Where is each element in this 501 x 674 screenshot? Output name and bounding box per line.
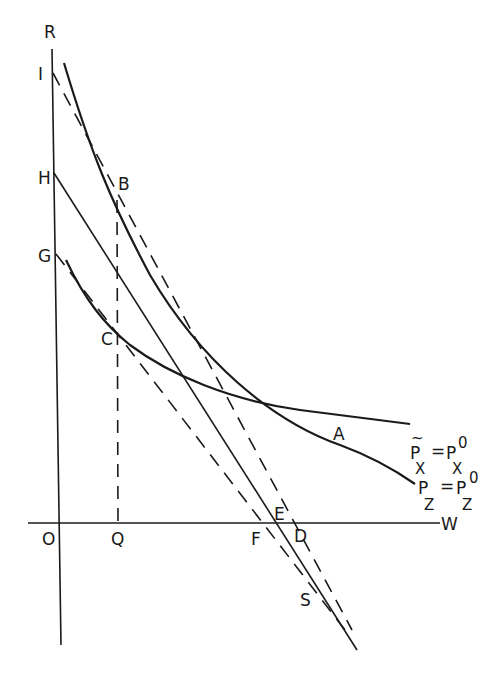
label-q: Q (111, 529, 124, 549)
dashed-line-g-c-s (56, 254, 345, 630)
svg-text:X: X (415, 460, 425, 478)
svg-text:P: P (456, 478, 466, 498)
svg-text:Z: Z (424, 496, 434, 514)
svg-text:0: 0 (458, 434, 468, 452)
svg-text:=: = (440, 476, 454, 496)
dashed-line-i-b-s (53, 73, 352, 630)
label-w: W (441, 514, 458, 534)
svg-text:P: P (418, 478, 428, 498)
label-e: E (274, 504, 285, 524)
label-a: A (333, 424, 345, 444)
svg-text:~: ~ (411, 429, 424, 447)
label-c: C (101, 329, 113, 349)
svg-text:Z: Z (462, 496, 472, 514)
label-d: D (294, 526, 307, 546)
svg-text:0: 0 (469, 469, 479, 487)
label-h: H (38, 168, 51, 188)
label-i: I (38, 64, 43, 84)
label-b: B (118, 174, 130, 194)
curve-label-pz: P Z = P Z 0 (418, 469, 479, 514)
label-s: S (300, 590, 311, 610)
label-g: G (38, 246, 51, 266)
curve-label-px: P ~ X = P X 0 (410, 429, 468, 478)
label-f: F (251, 529, 261, 549)
diagram-canvas: R I H G B C A O Q F E D S W P ~ X = P X … (0, 0, 501, 674)
label-o: O (42, 529, 55, 549)
vertical-axis-r (52, 49, 61, 645)
dashed-line-b-q (117, 200, 118, 523)
label-r: R (44, 22, 56, 42)
svg-text:=: = (431, 441, 445, 461)
